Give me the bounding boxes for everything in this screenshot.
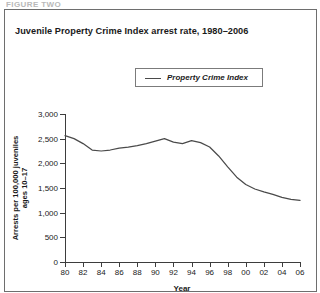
x-axis-tick bbox=[119, 262, 120, 267]
x-axis-tick-label: 82 bbox=[79, 268, 88, 277]
x-axis-tick bbox=[300, 262, 301, 267]
chart-legend: Property Crime Index bbox=[135, 68, 263, 87]
x-axis-tick-label: 86 bbox=[115, 268, 124, 277]
x-axis-tick bbox=[264, 262, 265, 267]
x-axis-tick-label: 04 bbox=[277, 268, 286, 277]
x-axis-tick-label: 80 bbox=[61, 268, 70, 277]
chart-title: Juvenile Property Crime Index arrest rat… bbox=[15, 26, 248, 36]
x-axis-tick-label: 88 bbox=[133, 268, 142, 277]
x-axis-title: Year bbox=[174, 284, 191, 293]
x-axis-tick-label: 06 bbox=[296, 268, 305, 277]
x-axis-tick bbox=[173, 262, 174, 267]
x-axis-tick bbox=[155, 262, 156, 267]
x-axis-tick-label: 84 bbox=[97, 268, 106, 277]
x-axis-tick bbox=[282, 262, 283, 267]
legend-line-swatch bbox=[145, 78, 161, 79]
x-axis-tick-label: 96 bbox=[205, 268, 214, 277]
x-axis-tick-label: 90 bbox=[151, 268, 160, 277]
x-axis-tick bbox=[137, 262, 138, 267]
x-axis-tick-label: 94 bbox=[187, 268, 196, 277]
x-axis-tick bbox=[101, 262, 102, 267]
y-axis-tick-label: 500 bbox=[45, 233, 58, 242]
y-axis-title-line1: Arrests per 100,000 juveniles bbox=[11, 136, 20, 241]
plot-area: Arrests per 100,000 juveniles ages 10–17… bbox=[65, 114, 300, 262]
x-axis-tick bbox=[192, 262, 193, 267]
x-axis-tick-label: 00 bbox=[241, 268, 250, 277]
x-axis-tick bbox=[246, 262, 247, 267]
cut-off-page-header: FIGURE TWO bbox=[6, 0, 156, 7]
x-axis-tick bbox=[210, 262, 211, 267]
y-axis-tick-label: 2,500 bbox=[38, 134, 58, 143]
series-property-crime-index bbox=[65, 114, 300, 262]
legend-item-label: Property Crime Index bbox=[167, 73, 248, 82]
x-axis-tick bbox=[228, 262, 229, 267]
y-axis-title: Arrests per 100,000 juveniles ages 10–17 bbox=[11, 113, 29, 263]
x-axis-tick-label: 98 bbox=[223, 268, 232, 277]
x-axis-tick-label: 92 bbox=[169, 268, 178, 277]
y-axis-tick-label: 1,500 bbox=[38, 184, 58, 193]
x-axis-tick-label: 02 bbox=[259, 268, 268, 277]
figure-frame: Juvenile Property Crime Index arrest rat… bbox=[4, 9, 317, 292]
x-axis-tick bbox=[83, 262, 84, 267]
y-axis-title-line2: ages 10–17 bbox=[20, 168, 29, 209]
y-axis-tick-label: 3,000 bbox=[38, 110, 58, 119]
y-axis-tick-label: 0 bbox=[54, 258, 58, 267]
y-axis-tick-label: 2,000 bbox=[38, 159, 58, 168]
x-axis-tick bbox=[65, 262, 66, 267]
y-axis-tick-label: 1,000 bbox=[38, 208, 58, 217]
